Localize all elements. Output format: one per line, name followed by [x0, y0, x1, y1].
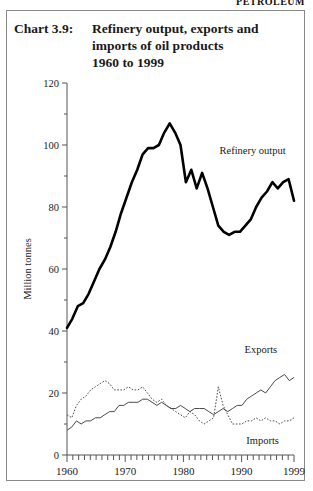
x-tick-label: 1999 [283, 465, 305, 477]
refinery-output-label: Refinery output [219, 145, 285, 156]
x-axis-ticks [67, 455, 294, 462]
x-tick-label: 1960 [56, 465, 79, 477]
y-axis-group: 020406080100120 Million tonnes [22, 78, 67, 461]
x-tick-label: 1980 [172, 465, 195, 477]
chart-svg: 020406080100120 Million tonnes 196019701… [6, 10, 305, 481]
x-tick-label: 1970 [114, 465, 137, 477]
y-tick-label: 0 [54, 450, 59, 461]
chart-page: PETROLEUM Chart 3.9: Refinery output, ex… [0, 0, 313, 491]
running-head: PETROLEUM [0, 0, 305, 7]
y-tick-label: 80 [49, 202, 60, 213]
x-tick-label: 1990 [231, 465, 254, 477]
y-tick-label: 120 [43, 78, 59, 89]
series-annotations: Refinery output Exports Imports [219, 145, 285, 446]
x-axis-group: 19601970198019901999 [56, 455, 305, 477]
y-axis-ticks [62, 83, 67, 455]
y-tick-label: 60 [49, 264, 60, 275]
series-group [67, 123, 294, 430]
y-tick-label: 100 [43, 140, 59, 151]
plot-area: 020406080100120 Million tonnes 196019701… [6, 10, 305, 481]
y-axis-tick-labels: 020406080100120 [43, 78, 59, 461]
y-tick-label: 40 [49, 326, 60, 337]
y-axis-title: Million tonnes [22, 238, 33, 300]
x-axis-tick-labels: 19601970198019901999 [56, 465, 305, 477]
y-tick-label: 20 [49, 388, 60, 399]
exports-label: Exports [245, 344, 278, 355]
imports-label: Imports [246, 435, 279, 446]
